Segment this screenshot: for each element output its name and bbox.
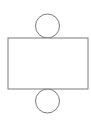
lateral-rectangle [8, 38, 88, 89]
bottom-circle [36, 89, 60, 113]
cylinder-net-diagram [0, 0, 91, 120]
top-circle [36, 14, 60, 38]
